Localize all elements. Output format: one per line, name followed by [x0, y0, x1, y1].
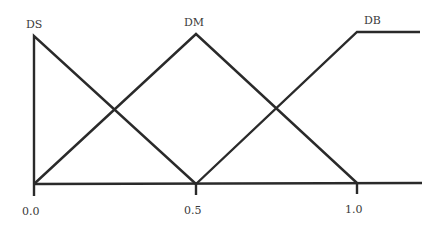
tick-label-1-0: 1.0 [345, 203, 363, 216]
x-axis [34, 183, 422, 184]
label-dm: DM [184, 16, 204, 29]
series-dm [34, 34, 357, 184]
tick-label-0: 0.0 [22, 205, 40, 218]
label-db: DB [364, 14, 381, 27]
series-db [196, 32, 420, 184]
membership-function-chart: DS DM DB 0.0 0.5 1.0 [0, 0, 444, 225]
label-ds: DS [26, 18, 42, 31]
tick-label-0-5: 0.5 [184, 204, 202, 217]
